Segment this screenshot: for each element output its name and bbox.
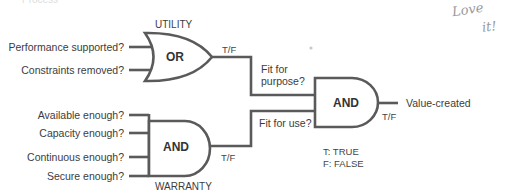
utility-input-constraints: Constraints removed? [21,64,124,76]
handwritten-note-line2: it! [481,19,497,34]
value-output-tf: T/F [382,111,396,122]
warranty-input-available: Available enough? [38,109,124,121]
utility-group-label: UTILITY [155,19,192,31]
fit-for-purpose-label-1: Fit for [261,63,288,75]
utility-output-tf: T/F [222,44,236,55]
value-creation-logic-diagram: Process Love it! UTILITY Performance sup… [0,0,525,196]
warranty-output-tf: T/F [221,152,235,163]
stray-dot [309,46,312,49]
fit-for-use-label: Fit for use? [259,117,312,129]
header-cutoff-text: Process [22,0,58,5]
warranty-input-capacity: Capacity enough? [39,127,124,139]
warranty-input-continuous: Continuous enough? [27,151,124,163]
warranty-input-secure: Secure enough? [47,170,124,182]
legend-false: F: FALSE [323,158,364,169]
utility-input-performance: Performance supported? [8,41,124,53]
warranty-and-gate-label: AND [163,140,189,154]
value-and-gate-label: AND [333,96,359,110]
fit-for-purpose-label-2: purpose? [261,75,305,87]
legend-true: T: TRUE [323,146,359,157]
or-gate-label: OR [166,50,184,64]
value-created-label: Value-created [406,97,471,109]
warranty-group-label: WARRANTY [155,181,212,193]
